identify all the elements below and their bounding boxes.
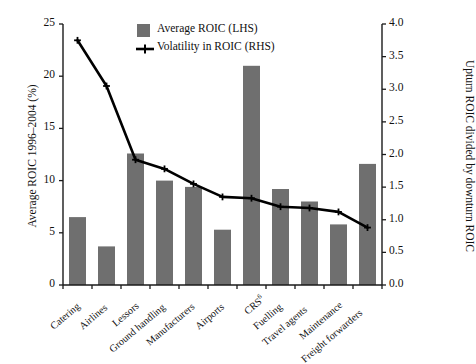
legend-swatch-average-roic <box>137 24 150 37</box>
legend-marker-volatility <box>136 42 154 56</box>
right-tick-label-1.5: 1.5 <box>389 179 403 191</box>
right-tick-label-2.5: 2.5 <box>389 114 403 126</box>
bar-lessors <box>127 154 144 286</box>
legend-label-average-roic: Average ROIC (LHS) <box>157 22 258 34</box>
bar-airlines <box>98 246 115 285</box>
right-tick-label-2.0: 2.0 <box>389 147 403 159</box>
bar-travel-agents <box>301 202 318 286</box>
bar-ground-handling <box>156 181 173 285</box>
bar-manufacturers <box>185 187 202 285</box>
bar-airports <box>214 230 231 285</box>
bar-maintenance <box>330 224 347 285</box>
right-tick-label-4.0: 4.0 <box>389 16 403 28</box>
left-tick-label-20: 20 <box>27 68 55 80</box>
right-tick-label-0.0: 0.0 <box>389 277 403 289</box>
bar-catering <box>69 217 86 285</box>
right-tick-label-0.5: 0.5 <box>389 244 403 256</box>
left-tick-label-25: 25 <box>27 16 55 28</box>
left-tick-label-15: 15 <box>27 120 55 132</box>
right-tick-label-1.0: 1.0 <box>389 212 403 224</box>
left-tick-label-0: 0 <box>27 277 55 289</box>
left-tick-label-10: 10 <box>27 173 55 185</box>
left-tick-label-5: 5 <box>27 225 55 237</box>
legend-label-volatility: Volatility in ROIC (RHS) <box>157 40 275 52</box>
bar-crs <box>243 66 260 285</box>
right-tick-label-3.0: 3.0 <box>389 81 403 93</box>
right-tick-label-3.5: 3.5 <box>389 49 403 61</box>
